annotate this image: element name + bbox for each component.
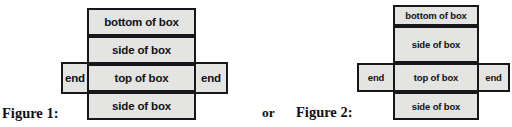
figure-1-cell-side-of-box-lower: side of box	[87, 92, 196, 120]
figure-2-cell-bottom-of-box: bottom of box	[393, 5, 479, 26]
figure-2-cell-side-of-box-lower: side of box	[393, 92, 479, 120]
conjunction-or-label: or	[262, 105, 275, 121]
figure-2-caption: Figure 2:	[296, 104, 353, 121]
figure-1-caption: Figure 1:	[2, 105, 59, 122]
figure-1-cell-end-right: end	[194, 62, 228, 94]
figure-1-cell-top-of-box: top of box	[87, 64, 196, 92]
figure-1-cell-side-of-box-upper: side of box	[87, 36, 196, 64]
figure-2-cell-end-left: end	[357, 63, 395, 92]
figure-1-cell-end-left: end	[61, 62, 89, 94]
figure-2-cell-side-of-box-upper: side of box	[393, 26, 479, 63]
figure-2-cell-end-right: end	[477, 63, 510, 92]
figure-2-cell-top-of-box: top of box	[393, 63, 479, 92]
figure-1-cell-bottom-of-box: bottom of box	[87, 8, 196, 36]
